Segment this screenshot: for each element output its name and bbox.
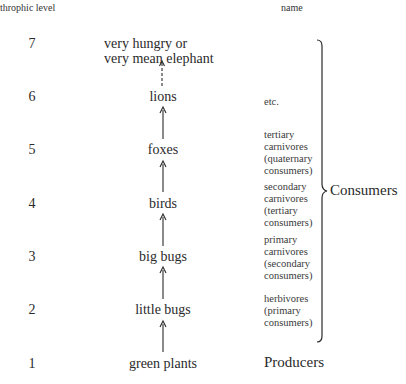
name-line: consumers) xyxy=(264,165,312,177)
name-line: carnivores xyxy=(264,193,312,205)
name-level-6: etc. xyxy=(264,96,279,108)
name-line: consumers) xyxy=(264,217,312,229)
name-line: primary xyxy=(264,234,312,246)
name-line: (primary xyxy=(264,305,312,317)
name-level-4: secondary carnivores (tertiary consumers… xyxy=(264,181,312,229)
name-level-5: tertiary carnivores (quaternary consumer… xyxy=(264,129,312,177)
name-line: consumers) xyxy=(264,317,312,329)
producers-label: Producers xyxy=(264,354,324,371)
name-level-3: primary carnivores (secondary consumers) xyxy=(264,234,312,282)
name-line: secondary xyxy=(264,181,312,193)
name-line: (secondary xyxy=(264,258,312,270)
name-line: carnivores xyxy=(264,246,312,258)
name-line: herbivores xyxy=(264,293,312,305)
name-line: carnivores xyxy=(264,141,312,153)
name-line: consumers) xyxy=(264,270,312,282)
name-line: (tertiary xyxy=(264,205,312,217)
name-line: tertiary xyxy=(264,129,312,141)
name-line: etc. xyxy=(264,96,279,108)
consumers-label: Consumers xyxy=(330,182,398,199)
name-level-2: herbivores (primary consumers) xyxy=(264,293,312,329)
name-line: (quaternary xyxy=(264,153,312,165)
right-brace-icon xyxy=(317,40,327,342)
